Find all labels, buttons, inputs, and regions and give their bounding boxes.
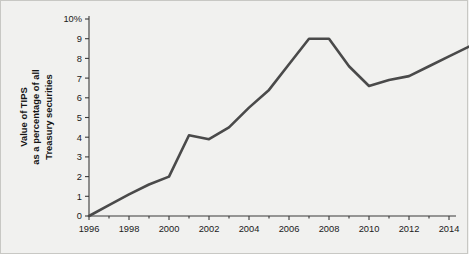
x-tick-label: 2014	[439, 224, 460, 234]
x-tick-label: 2006	[279, 224, 300, 234]
y-axis-title-line: Treasury securities	[43, 74, 54, 159]
y-tick-label: 2	[77, 172, 82, 182]
y-tick-label: 9	[77, 34, 82, 44]
y-axis-title: Value of TIPSas a percentage of allTreas…	[18, 69, 54, 164]
y-tick-label: 10%	[63, 14, 82, 24]
y-axis-title-line: as a percentage of all	[30, 69, 41, 164]
x-tick-label: 2002	[199, 224, 220, 234]
x-axis-ticks: 1996199820002002200420062008201020122014	[79, 216, 460, 234]
y-axis-ticks: 012345678910%	[63, 14, 89, 221]
x-tick-label: 2012	[399, 224, 420, 234]
y-tick-label: 1	[77, 192, 82, 202]
y-tick-label: 3	[77, 152, 82, 162]
tips-share-line	[89, 39, 469, 216]
y-axis-title-line: Value of TIPS	[18, 87, 29, 146]
y-tick-label: 4	[77, 133, 82, 143]
y-tick-label: 8	[77, 54, 82, 64]
x-tick-label: 1998	[119, 224, 140, 234]
x-tick-label: 2010	[359, 224, 380, 234]
x-tick-label: 2004	[239, 224, 260, 234]
y-tick-label: 5	[77, 113, 82, 123]
y-tick-label: 7	[77, 74, 82, 84]
y-tick-label: 6	[77, 93, 82, 103]
y-tick-label: 0	[77, 211, 82, 221]
x-tick-label: 2008	[319, 224, 340, 234]
x-tick-label: 2000	[159, 224, 180, 234]
x-tick-label: 1996	[79, 224, 100, 234]
line-chart: Value of TIPSas a percentage of allTreas…	[1, 1, 469, 254]
